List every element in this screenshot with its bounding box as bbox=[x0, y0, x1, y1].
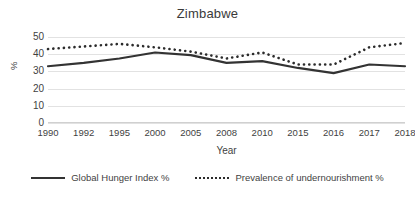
x-axis-tick: 2008 bbox=[216, 127, 237, 138]
x-axis-tick: 1992 bbox=[73, 127, 94, 138]
y-axis-tick-labels: 01020304050 bbox=[14, 30, 44, 130]
x-axis-tick: 1995 bbox=[109, 127, 130, 138]
y-axis-tick: 30 bbox=[14, 66, 44, 76]
x-axis-tick: 2010 bbox=[252, 127, 273, 138]
legend-dotted-line-icon bbox=[195, 177, 229, 179]
y-axis-tick: 10 bbox=[14, 101, 44, 111]
legend-solid-line-icon bbox=[31, 177, 65, 179]
y-axis-tick: 40 bbox=[14, 49, 44, 59]
plot-area bbox=[48, 37, 405, 123]
gridline bbox=[48, 123, 405, 124]
legend-divider bbox=[0, 166, 415, 167]
legend-entry-2[interactable]: Prevalence of undernourishment % bbox=[195, 172, 383, 183]
y-axis-tick: 50 bbox=[14, 32, 44, 42]
legend-label: Global Hunger Index % bbox=[71, 172, 169, 183]
chart-title: Zimbabwe bbox=[0, 6, 415, 21]
legend-label: Prevalence of undernourishment % bbox=[235, 172, 383, 183]
x-axis-tick: 2015 bbox=[287, 127, 308, 138]
legend-entry-1[interactable]: Global Hunger Index % bbox=[31, 172, 169, 183]
x-axis-tick-labels: 1990199219952000200520082010201520162017… bbox=[48, 127, 405, 141]
chart-legend: Global Hunger Index %Prevalence of under… bbox=[0, 172, 415, 183]
x-axis-tick: 2000 bbox=[145, 127, 166, 138]
x-axis-tick: 2016 bbox=[323, 127, 344, 138]
x-axis-tick: 2018 bbox=[394, 127, 415, 138]
x-axis-tick: 2017 bbox=[359, 127, 380, 138]
series-line-1 bbox=[48, 52, 405, 73]
x-axis-line bbox=[48, 122, 405, 123]
series-layer bbox=[48, 37, 405, 123]
x-axis-title: Year bbox=[48, 145, 405, 156]
x-axis-tick: 2005 bbox=[180, 127, 201, 138]
chart-container: Zimbabwe % 01020304050 19901992199520002… bbox=[0, 0, 415, 202]
x-axis-tick: 1990 bbox=[37, 127, 58, 138]
y-axis-tick: 20 bbox=[14, 84, 44, 94]
